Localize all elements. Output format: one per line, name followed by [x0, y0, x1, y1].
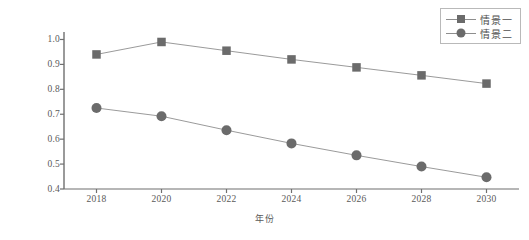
legend: 情景一 情景二 — [440, 8, 521, 44]
legend-circle-marker-icon — [446, 27, 476, 39]
x-axis-tick-label: 2020 — [132, 194, 192, 204]
x-axis-tick-label: 2018 — [67, 194, 127, 204]
x-axis-tick-label: 2026 — [327, 194, 387, 204]
legend-label-series-2: 情景二 — [476, 26, 513, 41]
legend-item-series-1[interactable]: 情景一 — [446, 12, 513, 26]
x-axis-tick-label: 2024 — [262, 194, 322, 204]
x-axis-label: 年份 — [0, 212, 529, 225]
chart-container: 能耗/碳排放量 0.40.50.60.70.80.91.0 2018202020… — [0, 0, 529, 240]
x-axis-tick-label: 2028 — [392, 194, 452, 204]
x-axis-tick-label: 2022 — [197, 194, 257, 204]
legend-item-series-2[interactable]: 情景二 — [446, 26, 513, 40]
legend-label-series-1: 情景一 — [476, 12, 513, 27]
x-axis-tick-label: 2030 — [457, 194, 517, 204]
legend-square-marker-icon — [446, 13, 476, 25]
